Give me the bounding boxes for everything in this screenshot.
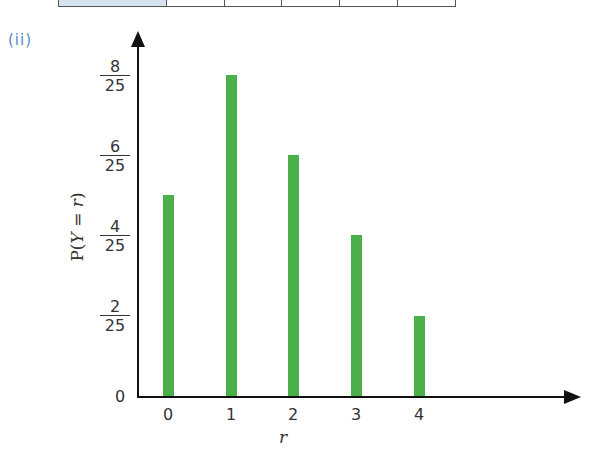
y-axis-arrow-icon (131, 31, 145, 47)
x-tick-1: 1 (221, 405, 241, 424)
x-tick-4: 4 (409, 405, 429, 424)
y-axis (137, 40, 139, 397)
y-tick-8-25: 8 25 (100, 58, 130, 94)
table-cell (340, 0, 398, 6)
x-tick-0: 0 (158, 405, 178, 424)
x-tick-3: 3 (346, 405, 366, 424)
table-cell (225, 0, 282, 6)
table-fragment (58, 0, 456, 7)
y-tick-0: 0 (115, 387, 125, 406)
y-tick-2-25: 2 25 (100, 298, 130, 334)
x-axis (137, 396, 569, 398)
x-axis-label: r (279, 427, 287, 447)
y-axis-label: P(Y = r) (67, 177, 87, 277)
table-cell (398, 0, 456, 6)
table-cell (282, 0, 340, 6)
part-label: (ii) (8, 31, 32, 49)
y-tick-6-25: 6 25 (100, 138, 130, 174)
bar-r-0 (163, 195, 174, 396)
y-tick-4-25: 4 25 (100, 218, 130, 254)
bar-r-2 (288, 155, 299, 396)
table-cell (167, 0, 225, 6)
bar-r-3 (351, 235, 362, 396)
bar-r-4 (414, 316, 425, 396)
x-axis-arrow-icon (564, 390, 581, 404)
table-cell (58, 0, 167, 6)
bar-r-1 (226, 75, 237, 396)
x-tick-2: 2 (283, 405, 303, 424)
